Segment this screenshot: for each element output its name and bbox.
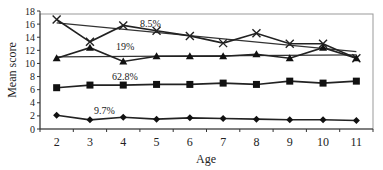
diamond-marker [320,116,327,123]
annotations: 8.5%19%62.8%9.7% [94,18,161,116]
x-tick-label: 5 [154,135,160,149]
square-marker [320,80,327,87]
x-tick-label: 2 [54,135,60,149]
y-tick-label: 6 [30,84,35,95]
square-marker [86,82,93,89]
series-square [53,78,360,92]
square-marker [286,78,293,85]
plot-area-border [40,14,373,129]
square-marker [253,81,260,88]
square-marker [186,81,193,88]
plot-frame [40,14,373,129]
x-tick-label: 7 [220,135,226,149]
diamond-marker [286,116,293,123]
y-tick-label: 10 [25,58,35,69]
square-marker [353,78,360,85]
diamond-marker [220,115,227,122]
y-tick-label: 12 [25,45,35,56]
series-triangle [53,44,361,65]
y-tick-label: 4 [30,97,35,108]
diamond-marker [253,116,260,123]
diamond-marker [120,114,127,121]
x-tick-label: 10 [317,135,329,149]
diamond-marker [153,116,160,123]
square-marker [153,81,160,88]
x-tick-label: 9 [287,135,293,149]
diamond-marker [186,114,193,121]
x-tick-label: 8 [253,135,259,149]
x-tick-label: 11 [351,135,363,149]
y-tick-label: 8 [30,71,35,82]
x-marker [53,16,61,24]
y-tick-label: 0 [30,124,35,135]
diamond-marker [353,117,360,124]
y-tick-label: 18 [25,6,35,17]
y-tick-label: 16 [25,19,35,30]
y-tick-label: 2 [30,110,35,121]
x-tick-label: 3 [87,135,93,149]
axes: 024681012141618234567891011 [25,6,373,150]
series-line [57,115,357,120]
x-tick-label: 6 [187,135,193,149]
diamond-marker [53,112,60,119]
trendline [57,23,357,52]
line-chart: 024681012141618234567891011 8.5%19%62.8%… [0,0,383,170]
square-marker [53,84,60,91]
x-tick-label: 4 [120,135,126,149]
diamond-marker [86,116,93,123]
y-tick-label: 14 [25,32,35,43]
series-percentage-label: 19% [116,41,134,52]
square-marker [120,82,127,89]
series-percentage-label: 62.8% [112,71,138,82]
series-line [57,48,357,62]
square-marker [220,80,227,87]
series-line [57,81,357,88]
x-axis-label: Age [196,152,216,166]
series-percentage-label: 9.7% [94,105,115,116]
series-percentage-label: 8.5% [140,18,161,29]
y-axis-label: Mean score [5,42,19,98]
